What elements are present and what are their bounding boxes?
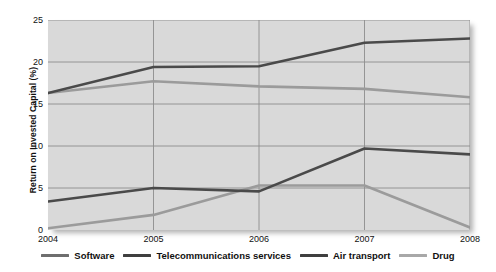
legend-line-swatch — [41, 254, 69, 257]
legend-label: Telecommunications services — [156, 250, 290, 261]
x-tick-label: 2004 — [38, 234, 58, 244]
legend-line-swatch — [399, 254, 427, 257]
chart-root: Return on Invested Capital (%) 051015202… — [0, 0, 496, 272]
plot-area: 0510152025 20042005200620072008 — [48, 20, 470, 230]
legend-label: Air transport — [333, 250, 391, 261]
x-tick-label: 2006 — [249, 234, 269, 244]
legend-item[interactable]: Drug — [399, 250, 454, 261]
x-tick-label: 2007 — [354, 234, 374, 244]
legend-label: Drug — [432, 250, 454, 261]
legend-item[interactable]: Software — [41, 250, 114, 261]
chart-legend: SoftwareTelecommunications servicesAir t… — [0, 250, 496, 261]
chart-canvas — [48, 20, 470, 230]
x-tick-label: 2005 — [143, 234, 163, 244]
x-tick-label: 2008 — [460, 234, 480, 244]
legend-item[interactable]: Telecommunications services — [123, 250, 290, 261]
y-tick-label: 20 — [33, 57, 43, 67]
legend-label: Software — [74, 250, 114, 261]
y-tick-label: 15 — [33, 99, 43, 109]
legend-line-swatch — [300, 254, 328, 257]
y-tick-label: 25 — [33, 15, 43, 25]
legend-line-swatch — [123, 254, 151, 257]
y-tick-label: 10 — [33, 141, 43, 151]
legend-item[interactable]: Air transport — [300, 250, 391, 261]
y-tick-label: 5 — [38, 183, 43, 193]
